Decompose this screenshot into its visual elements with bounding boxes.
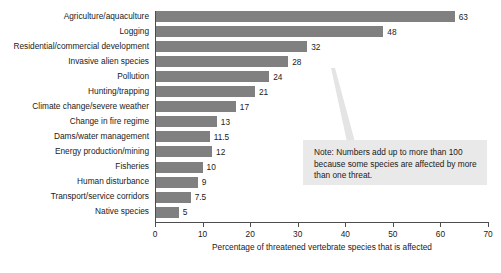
bar-row: 7.5 (155, 192, 488, 203)
bar-value-label: 24 (269, 72, 282, 82)
category-axis-labels: Agriculture/aquacultureLoggingResidentia… (0, 11, 152, 222)
category-label: Pollution (0, 71, 149, 81)
bar-row: 48 (155, 26, 488, 37)
bar-value-label: 63 (455, 12, 468, 22)
plot-area: 634832282421171311.5121097.55 (155, 11, 488, 222)
bar-row: 32 (155, 41, 488, 52)
category-label: Change in fire regime (0, 116, 149, 126)
bar-row: 28 (155, 56, 488, 67)
x-axis-tick (298, 223, 299, 227)
x-axis-tick (440, 223, 441, 227)
category-label: Invasive alien species (0, 56, 149, 66)
category-label: Transport/service corridors (0, 191, 149, 201)
category-label: Dams/water management (0, 131, 149, 141)
x-axis-tick-label: 70 (483, 229, 492, 239)
bar (155, 26, 383, 37)
y-axis-line (155, 11, 156, 222)
bar-value-label: 5 (179, 207, 188, 217)
callout-pointer-icon (325, 68, 359, 142)
x-axis-tick (203, 223, 204, 227)
x-axis-tick-label: 30 (293, 229, 302, 239)
note-text: Note: Numbers add up to more than 100 be… (314, 147, 478, 182)
bar (155, 162, 203, 173)
x-axis-tick-label: 10 (198, 229, 207, 239)
bar-value-label: 17 (236, 102, 249, 112)
bar-value-label: 11.5 (210, 132, 230, 142)
category-label: Residential/commercial development (0, 41, 149, 51)
bar-value-label: 9 (198, 177, 207, 187)
bar-value-label: 32 (307, 42, 320, 52)
x-axis-tick (155, 223, 156, 227)
bar-value-label: 13 (217, 117, 230, 127)
bar-row: 13 (155, 116, 488, 127)
x-axis-tick (393, 223, 394, 227)
category-label: Human disturbance (0, 176, 149, 186)
x-axis-title: Percentage of threatened vertebrate spec… (155, 242, 489, 252)
bar-value-label: 21 (255, 87, 268, 97)
bar-value-label: 48 (383, 27, 396, 37)
category-label: Hunting/trapping (0, 86, 149, 96)
bar-row: 24 (155, 71, 488, 82)
x-axis-tick (250, 223, 251, 227)
x-axis-tick (345, 223, 346, 227)
category-label: Agriculture/aquaculture (0, 11, 149, 21)
threatened-species-bar-chart: Agriculture/aquacultureLoggingResidentia… (0, 0, 501, 273)
bar (155, 177, 198, 188)
bar (155, 116, 217, 127)
category-label: Logging (0, 26, 149, 36)
bar (155, 207, 179, 218)
x-axis-tick-label: 60 (436, 229, 445, 239)
bar-row: 21 (155, 86, 488, 97)
bar (155, 101, 236, 112)
bar (155, 56, 288, 67)
bar (155, 11, 455, 22)
bar-value-label: 7.5 (191, 192, 207, 202)
x-axis-tick-label: 20 (246, 229, 255, 239)
bar-value-label: 28 (288, 57, 301, 67)
bar (155, 192, 191, 203)
category-label: Fisheries (0, 161, 149, 171)
bar (155, 71, 269, 82)
x-axis-tick-label: 0 (153, 229, 158, 239)
category-label: Native species (0, 206, 149, 216)
bar-row: 63 (155, 11, 488, 22)
bar-value-label: 12 (212, 147, 225, 157)
x-axis-tick-label: 50 (388, 229, 397, 239)
x-axis-tick (488, 223, 489, 227)
bar (155, 41, 307, 52)
bar-value-label: 10 (203, 162, 216, 172)
category-label: Climate change/severe weather (0, 101, 149, 111)
bar-row: 5 (155, 207, 488, 218)
bar (155, 146, 212, 157)
x-axis-tick-label: 40 (341, 229, 350, 239)
category-label: Energy production/mining (0, 146, 149, 156)
bar (155, 86, 255, 97)
bar (155, 131, 210, 142)
note-callout-box: Note: Numbers add up to more than 100 be… (303, 140, 487, 185)
bar-row: 17 (155, 101, 488, 112)
x-axis-line (155, 222, 489, 223)
